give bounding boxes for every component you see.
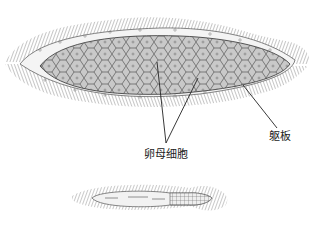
body-plate-label: 躯板 bbox=[269, 131, 291, 142]
male-organism bbox=[72, 185, 227, 211]
organism-diagram bbox=[0, 0, 317, 227]
oocyte-label: 卵母细胞 bbox=[144, 149, 188, 160]
